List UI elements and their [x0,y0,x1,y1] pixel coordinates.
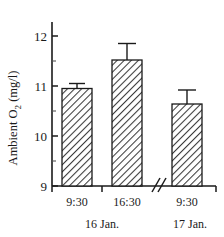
y-axis-title: Ambient O2 (mg/l) [6,71,23,166]
group-label-16-jan: 16 Jan. [85,217,119,231]
bar-group-1[interactable] [62,84,92,187]
y-axis-title-post: (mg/l) [6,71,20,105]
bar-2[interactable] [112,60,142,186]
bar-chart-svg: Ambient O2 (mg/l) 12 11 10 9 [0,0,224,237]
x-tick-label-2: 16:30 [113,195,140,209]
x-axis-ticks [52,186,216,192]
y-tick-label-11: 11 [34,79,47,94]
x-axis-category-labels: 9:30 16:30 9:30 [66,195,197,209]
bar-group-3[interactable] [172,90,202,186]
bar-3[interactable] [172,104,202,186]
group-label-17-jan: 17 Jan. [173,217,207,231]
x-tick-label-3: 9:30 [176,195,197,209]
x-tick-label-1: 9:30 [66,195,87,209]
y-axis-title-pre: Ambient O [6,109,20,165]
y-tick-label-9: 9 [41,179,48,194]
chart-container: Ambient O2 (mg/l) 12 11 10 9 [0,0,224,237]
y-tick-label-12: 12 [34,29,47,44]
y-axis-ticks: 12 11 10 9 [34,29,58,194]
bar-group-2[interactable] [112,44,142,187]
y-tick-label-10: 10 [34,129,47,144]
svg-text:Ambient O2 (mg/l): Ambient O2 (mg/l) [6,71,23,166]
bar-1[interactable] [62,89,92,187]
x-axis-break-icon [152,178,166,192]
x-axis-group-labels: 16 Jan. 17 Jan. [85,217,207,231]
